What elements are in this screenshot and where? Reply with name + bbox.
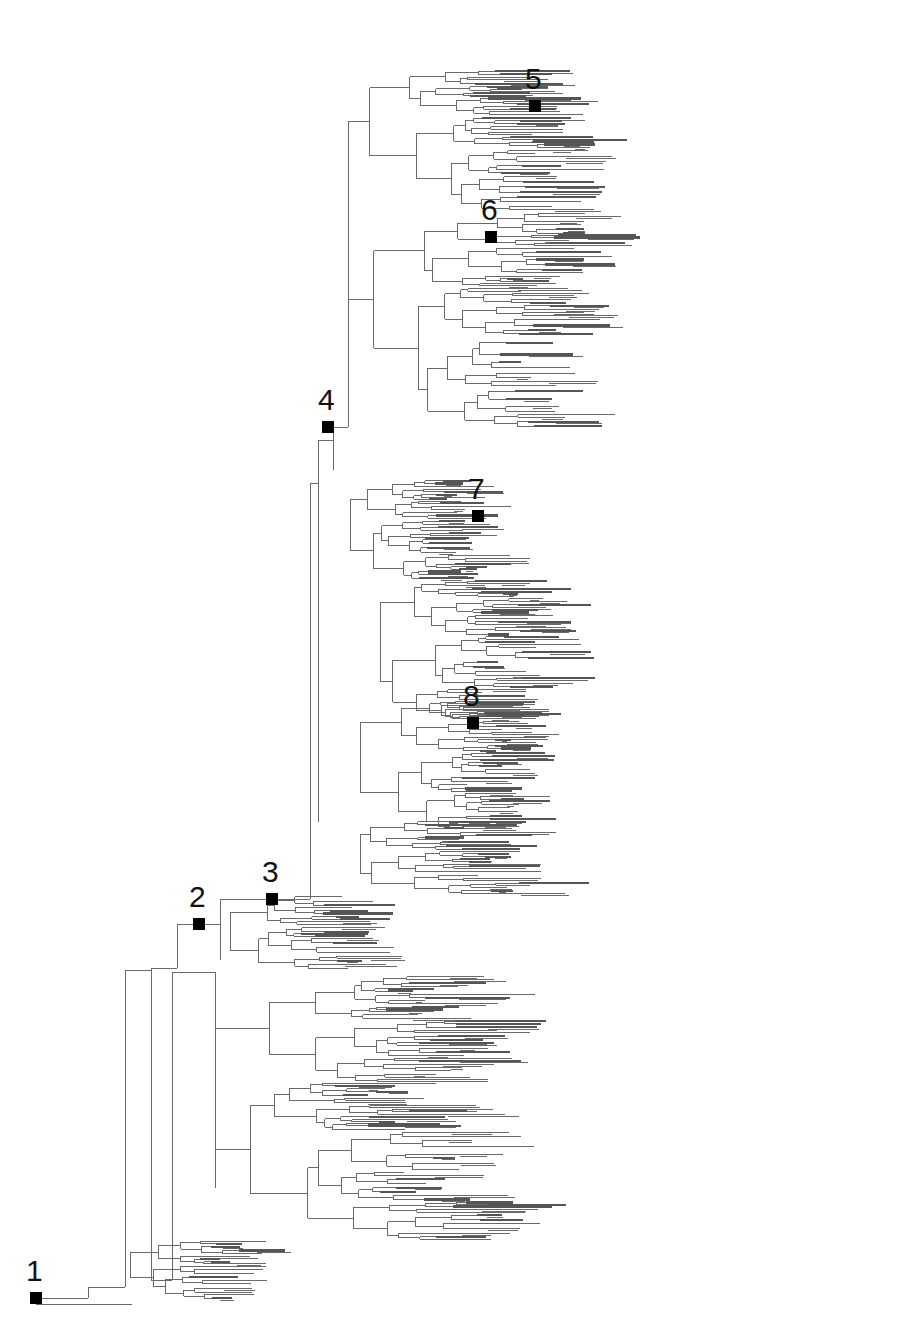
- node-label-3: 3: [262, 857, 279, 887]
- node-marker-5: [529, 100, 541, 112]
- node-label-5: 5: [525, 64, 542, 94]
- node-marker-8: [467, 717, 479, 729]
- node-marker-7: [472, 510, 484, 522]
- node-label-4: 4: [318, 385, 335, 415]
- node-marker-1: [30, 1292, 42, 1304]
- tree-trunk: [36, 290, 348, 1304]
- node-marker-2: [193, 918, 205, 930]
- node-marker-6: [485, 231, 497, 243]
- node-marker-3: [266, 893, 278, 905]
- node-label-1: 1: [26, 1256, 43, 1286]
- node-label-2: 2: [189, 882, 206, 912]
- tree-branches: [130, 71, 640, 1300]
- node-label-6: 6: [481, 195, 498, 225]
- node-label-7: 7: [468, 474, 485, 504]
- node-marker-4: [322, 421, 334, 433]
- node-label-8: 8: [463, 681, 480, 711]
- phylogenetic-tree: [0, 0, 922, 1337]
